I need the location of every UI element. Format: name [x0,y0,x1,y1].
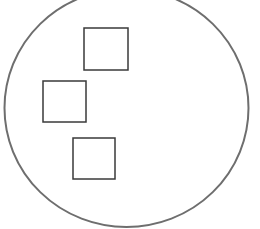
diagram-canvas [0,0,260,229]
square-bottom [73,138,115,179]
square-top [84,28,128,70]
square-middle [43,81,86,122]
diagram-svg [0,0,260,229]
outer-circle [5,0,249,227]
